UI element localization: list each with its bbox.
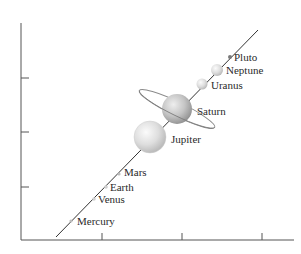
label-earth: Earth	[110, 181, 134, 193]
earth-dot	[104, 185, 108, 189]
y-axis	[21, 23, 29, 240]
mercury-dot	[69, 219, 72, 222]
label-jupiter: Jupiter	[171, 133, 201, 145]
mars-dot	[117, 172, 120, 175]
uranus-sphere	[197, 79, 208, 90]
label-uranus: Uranus	[211, 79, 243, 91]
saturn-sphere	[162, 94, 192, 124]
label-pluto: Pluto	[234, 51, 258, 63]
label-venus: Venus	[98, 193, 125, 205]
label-mars: Mars	[124, 166, 147, 178]
x-axis	[21, 233, 294, 240]
label-neptune: Neptune	[226, 64, 263, 76]
label-saturn: Saturn	[197, 105, 226, 117]
venus-dot	[92, 197, 96, 201]
label-mercury: Mercury	[77, 215, 115, 227]
neptune-sphere	[211, 64, 223, 76]
pluto-dot	[228, 55, 232, 59]
jupiter-sphere	[134, 121, 166, 153]
planet-diagram: Pluto Neptune Uranus Saturn Jupiter Mars…	[0, 0, 301, 254]
